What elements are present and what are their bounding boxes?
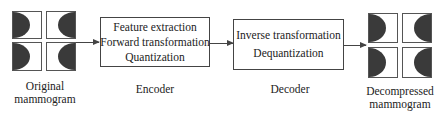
arrow-to-decoder [210, 43, 233, 44]
mammogram-tile-top-left [12, 11, 42, 39]
breast-shape-icon [13, 43, 30, 70]
mammogram-tile-bottom-left [368, 47, 398, 78]
mammogram-tile-top-right [46, 11, 76, 39]
breast-shape-icon [414, 14, 431, 42]
label-line: Original [10, 80, 80, 93]
mammogram-tile-top-right [402, 13, 432, 43]
decoder-label: Decoder [255, 83, 325, 96]
label-line: Decompressed [360, 85, 440, 98]
encoder-label: Encoder [120, 83, 190, 96]
original-mammogram-label: Original mammogram [10, 80, 80, 106]
mammogram-tile-bottom-right [402, 47, 432, 78]
breast-shape-icon [13, 12, 30, 38]
decoder-step: Inverse transformation [236, 28, 340, 43]
mammogram-tile-top-left [368, 13, 398, 43]
breast-shape-icon [414, 48, 431, 77]
breast-shape-icon [369, 14, 386, 42]
mammogram-tile-bottom-right [46, 42, 76, 71]
encoder-step: Feature extraction [113, 20, 196, 35]
decoder-step: Dequantization [253, 46, 323, 61]
arrow-to-output [344, 45, 366, 46]
breast-shape-icon [369, 48, 386, 77]
encoder-step: Quantization [125, 50, 184, 65]
breast-shape-icon [58, 43, 75, 70]
encoder-step: Forward transformation [100, 35, 210, 50]
label-line: mammogram [10, 93, 80, 106]
decoder-box: Inverse transformation Dequantization [233, 19, 344, 70]
decompressed-mammogram-label: Decompressed mammogram [360, 85, 440, 111]
label-line: mammogram [360, 98, 440, 111]
mammogram-tile-bottom-left [12, 42, 42, 71]
arrow-to-encoder [76, 42, 99, 43]
breast-shape-icon [58, 12, 75, 38]
encoder-box: Feature extraction Forward transformatio… [100, 17, 210, 67]
